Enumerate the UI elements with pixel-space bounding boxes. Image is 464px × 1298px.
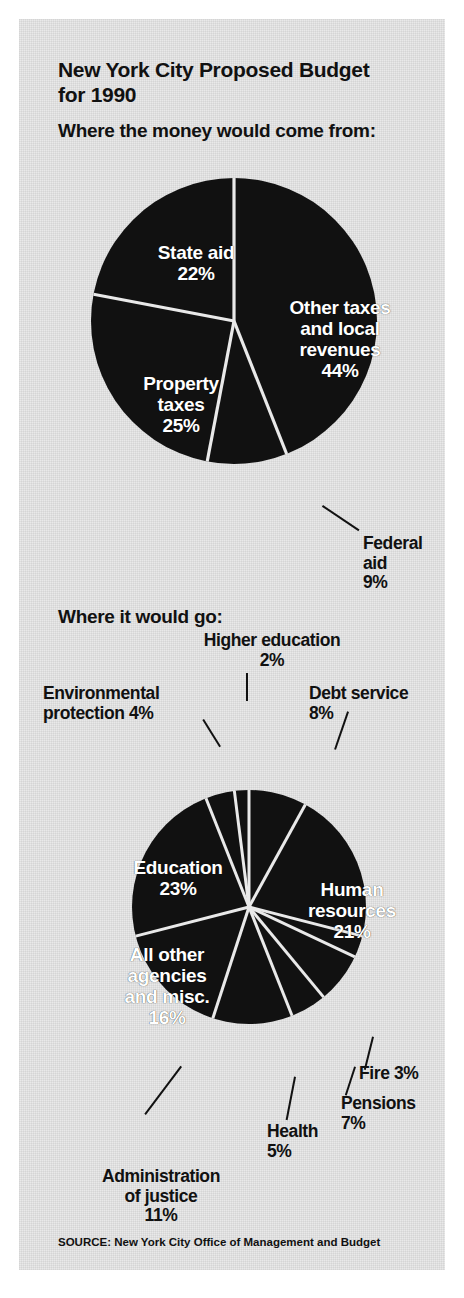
slice-percent: 21% bbox=[287, 921, 417, 942]
slice-line: Pensions bbox=[341, 1093, 416, 1113]
slice-percent: 5% bbox=[267, 1141, 292, 1161]
pie-slice-label-state-aid: State aid 22% bbox=[121, 242, 271, 284]
slice-percent: 11% bbox=[145, 1205, 178, 1225]
page-title: New York City Proposed Budget for 1990 bbox=[58, 57, 388, 107]
pie-slice-label-administration-of-justice: Administration of justice 11% bbox=[71, 1167, 251, 1226]
slice-percent: 23% bbox=[103, 878, 253, 899]
slice-line: of justice bbox=[125, 1186, 198, 1206]
slice-line: Higher education bbox=[204, 630, 341, 650]
slice-line: Property bbox=[143, 373, 219, 394]
slice-line: Administration bbox=[102, 1166, 220, 1186]
leader-line-pensions bbox=[345, 1067, 356, 1096]
pie-slice-label-other-taxes: Other taxes and local revenues 44% bbox=[265, 297, 415, 381]
leader-line-higher-education bbox=[246, 673, 248, 701]
slice-line: Education bbox=[133, 857, 222, 878]
slice-percent: 44% bbox=[265, 360, 415, 381]
slice-line: agencies bbox=[128, 965, 207, 986]
slice-line: State aid bbox=[158, 242, 235, 263]
slice-line: taxes bbox=[157, 394, 204, 415]
section-heading-spending: Where it would go: bbox=[58, 605, 398, 629]
section-heading-revenue: Where the money would come from: bbox=[58, 119, 398, 143]
slice-line: and local bbox=[300, 318, 380, 339]
pie-slice-label-education: Education 23% bbox=[103, 857, 253, 899]
leader-line-environmental-protection bbox=[203, 719, 221, 747]
pie-slice-label-health: Health 5% bbox=[267, 1122, 367, 1161]
slice-line: and misc. bbox=[125, 986, 210, 1007]
pie-slice-label-human-resources: Human resources 21% bbox=[287, 879, 417, 942]
slice-percent: 22% bbox=[121, 263, 271, 284]
slice-percent: 25% bbox=[111, 415, 251, 436]
pie-slice-label-fire: Fire 3% bbox=[359, 1064, 445, 1084]
leader-line-health bbox=[286, 1077, 296, 1120]
slice-line: Other taxes bbox=[289, 297, 390, 318]
slice-line: Health bbox=[267, 1121, 318, 1141]
slice-line: All other bbox=[130, 944, 204, 965]
pie-slice-label-higher-education: Higher education 2% bbox=[147, 631, 397, 670]
slice-line: Environmental bbox=[43, 683, 159, 703]
pie-slice-label-federal-aid: Federal aid 9% bbox=[363, 534, 445, 593]
pie-slice-label-all-other-agencies: All other agencies and misc. 16% bbox=[91, 944, 243, 1028]
slice-line: protection 4% bbox=[43, 703, 154, 723]
slice-line: Fire 3% bbox=[359, 1063, 418, 1083]
slice-line: Human bbox=[321, 879, 384, 900]
pie-slice-label-debt-service: Debt service 8% bbox=[309, 684, 445, 723]
slice-line: Federal bbox=[363, 533, 422, 553]
slice-percent: 9% bbox=[363, 572, 388, 592]
slice-percent: 8% bbox=[309, 703, 334, 723]
slice-percent: 16% bbox=[91, 1007, 243, 1028]
leader-line-administration-of-justice bbox=[145, 1066, 182, 1115]
leader-line-federal-aid bbox=[322, 505, 359, 531]
slice-line: revenues bbox=[299, 339, 380, 360]
infographic-panel: New York City Proposed Budget for 1990 W… bbox=[19, 19, 445, 1270]
pie-slice-label-environmental-protection: Environmental protection 4% bbox=[43, 684, 233, 723]
slice-line: resources bbox=[308, 900, 396, 921]
slice-percent: 2% bbox=[260, 650, 285, 670]
source-note: SOURCE: New York City Office of Manageme… bbox=[58, 1235, 398, 1249]
slice-line: Debt service bbox=[309, 683, 408, 703]
pie-slice-label-property-taxes: Property taxes 25% bbox=[111, 373, 251, 436]
slice-line: aid bbox=[363, 553, 387, 573]
